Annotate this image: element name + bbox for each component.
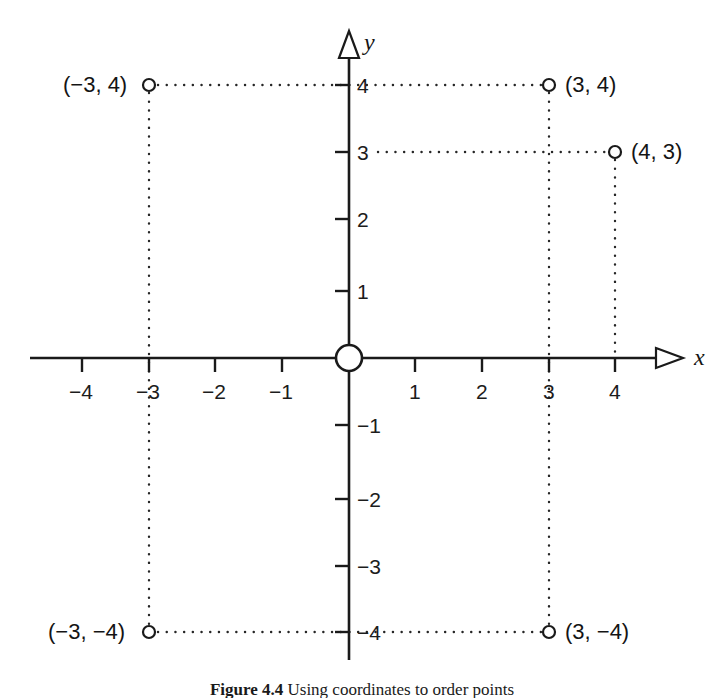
y-tick-label-pos4: 4 bbox=[357, 75, 369, 96]
x-tick-label-pos1: 1 bbox=[409, 381, 421, 402]
x-tick-label-neg1: −1 bbox=[269, 381, 293, 402]
y-tick-label-neg2: −2 bbox=[357, 489, 381, 510]
x-tick-label-pos2: 2 bbox=[476, 381, 488, 402]
x-tick-label-neg3: −3 bbox=[136, 381, 160, 402]
point-label-3-4: (3, 4) bbox=[565, 74, 616, 96]
coordinate-plane-figure: x y −4 −3 −2 −1 1 2 3 4 4 3 2 1 −1 −2 −3… bbox=[0, 0, 724, 698]
figure-caption: Figure 4.4 Using coordinates to order po… bbox=[0, 681, 724, 698]
y-tick-label-pos1: 1 bbox=[357, 281, 369, 302]
y-tick-label-neg4: −4 bbox=[357, 622, 381, 643]
y-tick-label-neg1: −1 bbox=[357, 415, 381, 436]
figure-caption-number: Figure 4.4 bbox=[210, 681, 283, 698]
point-label-3-neg4: (3, −4) bbox=[565, 621, 629, 643]
data-point-marker bbox=[543, 626, 555, 638]
y-tick-label-pos2: 2 bbox=[357, 209, 369, 230]
y-axis-arrowhead-icon bbox=[339, 31, 359, 58]
coordinate-plane-svg bbox=[0, 0, 724, 698]
data-point-marker bbox=[543, 79, 555, 91]
x-tick-label-neg2: −2 bbox=[202, 381, 226, 402]
x-tick-label-pos3: 3 bbox=[543, 381, 555, 402]
point-label-4-3: (4, 3) bbox=[631, 141, 682, 163]
axis-arrowheads bbox=[339, 31, 683, 368]
x-tick-label-neg4: −4 bbox=[69, 381, 93, 402]
point-label-neg3-neg4: (−3, −4) bbox=[48, 621, 125, 643]
figure-caption-text: Using coordinates to order points bbox=[287, 681, 514, 698]
y-tick-label-pos3: 3 bbox=[357, 142, 369, 163]
x-axis-label: x bbox=[694, 345, 705, 369]
data-point-marker bbox=[143, 79, 155, 91]
x-tick-label-pos4: 4 bbox=[609, 381, 621, 402]
y-tick-label-neg3: −3 bbox=[357, 556, 381, 577]
data-point-marker bbox=[143, 626, 155, 638]
point-label-neg3-4: (−3, 4) bbox=[63, 74, 127, 96]
x-axis-arrowhead-icon bbox=[656, 348, 683, 368]
origin-marker bbox=[336, 345, 362, 371]
data-point-marker bbox=[609, 146, 621, 158]
y-axis-label: y bbox=[364, 30, 375, 54]
